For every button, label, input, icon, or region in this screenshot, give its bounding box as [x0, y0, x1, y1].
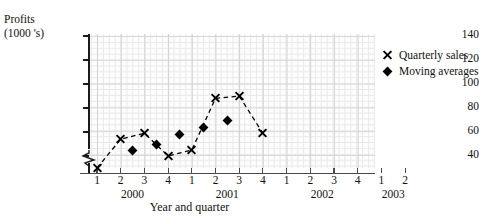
- x-tick: [239, 168, 240, 173]
- legend-entry-moving-averages: Moving averages: [381, 63, 479, 79]
- y-tick-label: 80: [401, 100, 479, 112]
- profits-scatter-chart: Profits (1000 's) 406080100120140 123412…: [0, 0, 479, 223]
- y-tick-label: 140: [401, 28, 479, 40]
- x-axis-year-label: 2000: [110, 188, 156, 200]
- x-tick-label: 4: [348, 174, 368, 186]
- x-tick: [168, 168, 169, 173]
- legend-label: Moving averages: [399, 63, 479, 79]
- x-axis-year-label: 2002: [299, 188, 345, 200]
- x-tick-label: 1: [371, 174, 391, 186]
- y-tick: [83, 59, 89, 60]
- x-tick: [357, 168, 358, 173]
- x-tick-label: 4: [158, 174, 178, 186]
- y-tick: [83, 83, 89, 84]
- x-tick: [310, 168, 311, 173]
- x-axis-year-label: 2001: [204, 188, 250, 200]
- x-tick-label: 1: [87, 174, 107, 186]
- axis-break-icon: [80, 150, 98, 166]
- y-tick: [83, 131, 89, 132]
- x-tick: [96, 168, 97, 173]
- x-axis-year-label: 2003: [370, 188, 416, 200]
- x-tick-label: 3: [229, 174, 249, 186]
- x-tick-label: 4: [253, 174, 273, 186]
- legend-label: Quarterly sales: [399, 47, 468, 63]
- x-tick-label: 2: [300, 174, 320, 186]
- x-tick: [286, 168, 287, 173]
- diamond-marker-icon: [381, 65, 394, 78]
- y-axis-title-line1: Profits: [4, 12, 44, 26]
- x-tick-label: 2: [111, 174, 131, 186]
- x-tick: [191, 168, 192, 173]
- x-tick: [262, 168, 263, 173]
- x-tick: [333, 168, 334, 173]
- y-tick: [83, 155, 89, 156]
- y-tick: [83, 35, 89, 36]
- y-tick-label: 60: [401, 124, 479, 136]
- y-axis-title-line2: (1000 's): [4, 26, 44, 40]
- x-tick-label: 1: [182, 174, 202, 186]
- x-axis-title: Year and quarter: [0, 200, 379, 215]
- x-tick-label: 1: [277, 174, 297, 186]
- major-gridlines: [89, 34, 375, 168]
- x-tick: [144, 168, 145, 173]
- x-tick: [215, 168, 216, 173]
- x-tick: [120, 168, 121, 173]
- legend-entry-quarterly-sales: Quarterly sales: [381, 47, 479, 63]
- y-tick-label: 40: [401, 148, 479, 160]
- x-tick: [405, 168, 406, 173]
- plot-area: [89, 34, 375, 168]
- cross-marker-icon: [381, 49, 394, 62]
- x-tick-label: 3: [324, 174, 344, 186]
- x-tick-label: 3: [134, 174, 154, 186]
- chart-legend: Quarterly sales Moving averages: [381, 47, 479, 79]
- y-tick: [83, 107, 89, 108]
- x-tick-label: 2: [395, 174, 415, 186]
- y-axis-title: Profits (1000 's): [4, 12, 44, 40]
- x-tick-label: 2: [206, 174, 226, 186]
- x-tick: [381, 168, 382, 173]
